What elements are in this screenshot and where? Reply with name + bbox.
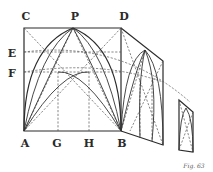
arch-cross-left (24, 72, 89, 131)
label-h: H (84, 137, 94, 150)
small-panel (179, 100, 193, 152)
label-d: D (119, 10, 129, 23)
label-g: G (52, 137, 61, 150)
small-panel-arch-1 (179, 108, 186, 150)
front-elevation (24, 28, 121, 131)
label-p: P (71, 10, 79, 23)
line-p-a (73, 28, 121, 131)
arch-cross-right (58, 72, 121, 131)
side-arch-5 (140, 50, 145, 138)
label-f: F (8, 67, 16, 80)
side-panel-diag-1 (121, 28, 163, 145)
vault-diagram: C P D E F A G H B Fig. 63 (0, 0, 213, 172)
label-a: A (20, 137, 30, 150)
connector-f (24, 68, 163, 82)
figure-caption: Fig. 63 (182, 162, 205, 170)
diagonal-c-b (24, 28, 121, 131)
outline-rect (24, 28, 121, 131)
diagonal-d-a (24, 28, 121, 131)
label-b: B (117, 137, 126, 150)
label-c: C (22, 10, 31, 23)
label-e: E (8, 47, 16, 60)
